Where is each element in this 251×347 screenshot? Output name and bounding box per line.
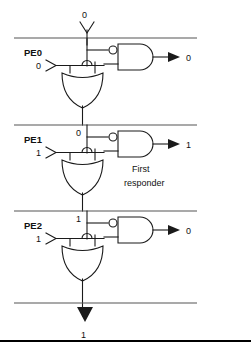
pe1-or-gate-icon (62, 160, 103, 195)
pe1-grant-arrow-icon (168, 139, 180, 149)
pe0-or-gate-icon (62, 73, 103, 108)
pe1-and-gate-icon (118, 131, 153, 157)
annotation-line-1: First (132, 164, 150, 174)
pe0-inverter-bubble-icon (109, 46, 117, 54)
stage-label-pe1: PE1 (24, 134, 43, 145)
pe2-and-gate-icon (118, 217, 153, 243)
top-input-label: 0 (82, 10, 87, 20)
pe2-chain-in-label: 1 (76, 214, 81, 224)
pe0-grant-label: 0 (186, 53, 191, 63)
pe2-grant-label: 0 (186, 226, 191, 236)
pe0-and-gate-icon (118, 44, 153, 70)
stage-pe1: 1 1 PE1 0 First responder (14, 125, 197, 211)
pe0-input-port-icon (46, 60, 56, 71)
pe2-request-label: 1 (36, 234, 41, 244)
stage-pe0: 0 0 PE0 (14, 38, 197, 125)
bottom-chain-output: 1 (14, 303, 197, 340)
circuit-diagram-canvas: 0 0 PE0 1 1 (0, 0, 251, 347)
priority-encoder-schematic: 0 0 PE0 1 1 (0, 0, 251, 347)
pe2-inverter-bubble-icon (109, 219, 117, 227)
stage-pe2: 0 1 PE2 1 (14, 211, 197, 316)
pe1-input-port-icon (46, 147, 56, 158)
pe1-request-label: 1 (36, 148, 41, 158)
pe2-grant-arrow-icon (168, 225, 180, 235)
bottom-arrow-icon (77, 307, 93, 322)
annotation-line-2: responder (124, 178, 165, 188)
pe2-input-port-icon (46, 233, 56, 244)
pe1-grant-label: 1 (186, 140, 191, 150)
pe0-request-label: 0 (36, 61, 41, 71)
stage-label-pe2: PE2 (24, 220, 42, 231)
pe1-chain-in-label: 0 (76, 128, 81, 138)
pe1-inverter-bubble-icon (109, 133, 117, 141)
bottom-output-label: 1 (81, 330, 86, 340)
pe2-or-gate-icon (62, 246, 103, 281)
stage-label-pe0: PE0 (24, 47, 42, 58)
pe0-grant-arrow-icon (168, 52, 180, 62)
